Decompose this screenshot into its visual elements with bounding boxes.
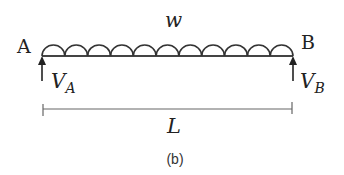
figure-caption: (b) bbox=[166, 151, 183, 167]
beam-diagram: A B w VA VB L (b) bbox=[0, 0, 344, 175]
reaction-label-va: VA bbox=[51, 69, 76, 96]
distributed-load bbox=[42, 45, 293, 56]
reaction-arrow-left bbox=[38, 56, 46, 81]
reaction-label-vb: VB bbox=[300, 69, 325, 96]
span-label-l: L bbox=[166, 114, 181, 138]
support-label-a: A bbox=[16, 35, 31, 57]
support-label-b: B bbox=[301, 31, 315, 53]
reaction-arrow-right bbox=[289, 56, 297, 81]
load-label-w: w bbox=[165, 8, 182, 32]
